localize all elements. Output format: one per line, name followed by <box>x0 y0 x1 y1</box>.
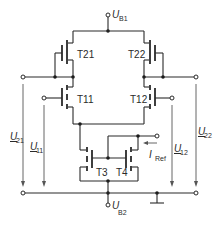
transistor-t21: T21 <box>55 31 95 77</box>
svg-text:12: 12 <box>180 149 188 156</box>
transistor-t22: T22 <box>128 31 163 77</box>
voltage-u22: U 22 <box>194 84 212 187</box>
t12-label: T12 <box>130 94 148 105</box>
svg-text:11: 11 <box>36 147 43 154</box>
transistor-t12: T12 <box>80 77 174 124</box>
t22-label: T22 <box>128 49 146 60</box>
t11-label: T11 <box>77 94 94 105</box>
output-left-terminal <box>21 75 25 79</box>
t4-label: T4 <box>116 167 128 178</box>
iref-sub: Ref <box>155 155 166 162</box>
transistor-t3: T3 <box>80 124 108 181</box>
input-t12-terminal <box>170 96 174 100</box>
circuit-schematic: U B1 T21 T22 <box>0 0 217 226</box>
svg-text:21: 21 <box>16 137 24 144</box>
input-t11-terminal <box>42 96 46 100</box>
output-right-terminal <box>194 75 198 79</box>
iref-terminal <box>155 134 159 138</box>
ub2-terminal <box>106 203 110 207</box>
ub2-sub: B2 <box>118 209 127 216</box>
voltage-u11: U 11 <box>30 105 46 187</box>
voltage-u12: U 12 <box>170 105 188 187</box>
transistor-t11: T11 <box>42 77 94 124</box>
t21-label: T21 <box>77 49 95 60</box>
t3-label: T3 <box>96 167 108 178</box>
ub1-terminal <box>106 13 110 17</box>
voltage-u21: U 21 <box>10 84 25 187</box>
ub1-sub: B1 <box>119 15 128 22</box>
iref-symbol: I <box>149 149 152 160</box>
svg-text:22: 22 <box>204 132 212 139</box>
